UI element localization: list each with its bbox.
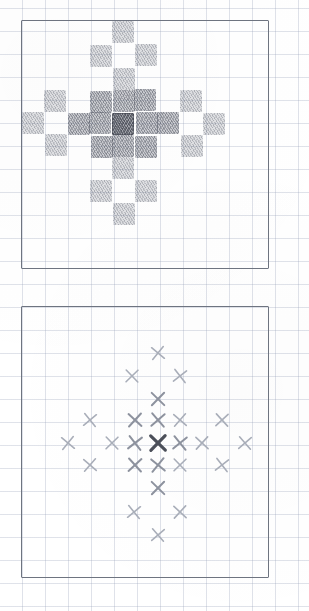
shaded-cell xyxy=(45,134,67,156)
x-mark xyxy=(125,433,145,453)
x-mark xyxy=(171,503,189,521)
shaded-cell xyxy=(113,68,135,90)
shaded-cell xyxy=(89,112,111,134)
x-mark xyxy=(149,479,167,497)
x-mark xyxy=(149,390,167,408)
x-mark xyxy=(170,433,189,452)
shaded-cell xyxy=(181,135,203,157)
shaded-cell xyxy=(112,135,134,157)
shaded-cell xyxy=(112,113,134,135)
shaded-grid-panel xyxy=(21,20,269,269)
x-mark xyxy=(59,434,78,453)
shaded-cell xyxy=(68,113,90,135)
shaded-cell xyxy=(202,113,224,135)
shaded-cell xyxy=(136,112,158,134)
x-mark xyxy=(124,368,141,385)
shaded-cell xyxy=(113,203,135,225)
shaded-cell xyxy=(44,89,66,111)
x-mark xyxy=(81,456,99,474)
shaded-cell xyxy=(91,135,113,157)
x-mark xyxy=(213,411,230,428)
shaded-cell xyxy=(135,44,157,66)
shaded-cell xyxy=(90,90,112,112)
x-mark xyxy=(149,411,168,430)
x-mark xyxy=(125,503,143,521)
x-mark xyxy=(236,434,254,452)
x-mark xyxy=(213,456,232,475)
x-mark xyxy=(149,526,167,544)
x-mark xyxy=(171,367,190,386)
shaded-cell xyxy=(180,90,202,112)
x-mark xyxy=(193,434,211,452)
shaded-cell xyxy=(111,157,133,179)
x-mark xyxy=(147,432,169,454)
shaded-cell xyxy=(157,111,179,133)
x-mark xyxy=(172,457,189,474)
x-mark xyxy=(81,411,99,429)
x-mark xyxy=(126,456,144,474)
x-mark xyxy=(126,411,145,430)
shaded-cell-layer xyxy=(21,20,269,269)
shaded-cell xyxy=(113,90,135,112)
x-mark xyxy=(148,455,168,475)
x-mark xyxy=(104,435,121,452)
shaded-cell xyxy=(89,45,111,67)
shaded-cell xyxy=(134,89,156,111)
shaded-cell xyxy=(135,136,157,158)
x-mark-layer xyxy=(21,306,269,578)
x-mark xyxy=(149,344,168,363)
shaded-cell xyxy=(89,180,111,202)
x-mark xyxy=(171,411,189,429)
x-mark-scatter-panel xyxy=(21,306,269,578)
shaded-cell xyxy=(22,112,44,134)
shaded-cell xyxy=(135,180,157,202)
shaded-cell xyxy=(111,21,133,43)
